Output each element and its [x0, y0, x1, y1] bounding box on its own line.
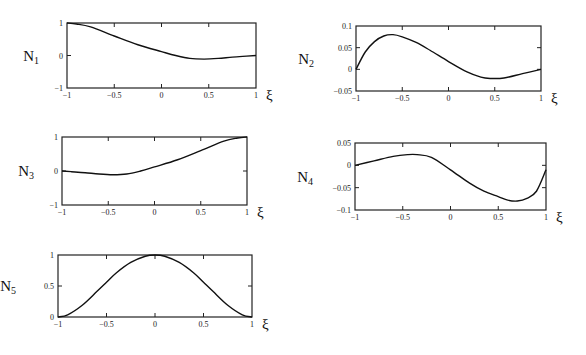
y-tick-label: 1 [50, 251, 54, 260]
x-tick-label: −1 [54, 320, 63, 329]
x-tick-label: 0.5 [196, 208, 206, 217]
y-tick-label: 0 [54, 167, 58, 176]
x-tick-label: 1 [539, 94, 543, 103]
chart-n1: −1−0.500.51−101N1ξ [23, 19, 273, 103]
x-axis-label: ξ [551, 90, 558, 106]
curve-n2 [356, 35, 541, 79]
x-tick-label: −1 [63, 91, 72, 100]
y-axis-label: N4 [297, 169, 313, 187]
x-tick-label: 0 [447, 94, 451, 103]
x-tick-label: 0.5 [199, 320, 209, 329]
x-tick-label: 1 [250, 320, 254, 329]
x-tick-label: 1 [245, 208, 249, 217]
x-tick-label: −0.5 [99, 320, 114, 329]
plot-frame [67, 23, 256, 88]
x-tick-label: 0.5 [493, 213, 503, 222]
x-tick-label: 0 [153, 320, 157, 329]
x-tick-label: −0.5 [395, 213, 410, 222]
x-axis-label: ξ [262, 316, 269, 332]
chart-n5: −1−0.500.5100.51N5ξ [0, 251, 269, 332]
y-axis-label: N5 [0, 278, 16, 296]
x-tick-label: 1 [254, 91, 258, 100]
y-tick-label: 0.05 [337, 139, 351, 148]
y-tick-label: 1 [59, 19, 63, 28]
y-tick-label: −0.1 [336, 206, 351, 215]
y-axis-label: N1 [23, 48, 39, 66]
x-tick-label: 0 [160, 91, 164, 100]
plot-frame [62, 137, 247, 205]
x-tick-label: −0.5 [395, 94, 410, 103]
y-tick-label: 0 [348, 65, 352, 74]
chart-n2: −1−0.500.51−0.0500.050.1N2ξ [298, 22, 558, 106]
y-axis-label: N3 [18, 163, 34, 181]
curve-n3 [62, 137, 247, 175]
x-axis-label: ξ [266, 87, 273, 103]
y-tick-label: 0 [59, 52, 63, 61]
chart-n3: −1−0.500.51−101N3ξ [18, 133, 264, 220]
x-tick-label: −1 [351, 213, 360, 222]
y-tick-label: 0 [50, 313, 54, 322]
curve-n1 [67, 23, 256, 59]
chart-n4: −1−0.500.51−0.1−0.0500.05N4ξ [297, 139, 563, 225]
x-tick-label: −1 [58, 208, 67, 217]
x-tick-label: 1 [544, 213, 548, 222]
y-axis-label: N2 [298, 51, 314, 69]
plot-frame [355, 143, 546, 210]
x-tick-label: 0 [449, 213, 453, 222]
x-tick-label: −1 [352, 94, 361, 103]
curve-n5 [58, 255, 252, 317]
y-tick-label: −1 [49, 201, 58, 210]
shape-functions-figure: −1−0.500.51−101N1ξ−1−0.500.51−0.0500.050… [0, 0, 586, 355]
y-tick-label: 1 [54, 133, 58, 142]
x-tick-label: 0.5 [204, 91, 214, 100]
y-tick-label: 0 [347, 161, 351, 170]
y-tick-label: 0.05 [338, 44, 352, 53]
x-tick-label: 0 [153, 208, 157, 217]
curve-n4 [355, 154, 546, 201]
y-tick-label: −1 [54, 84, 63, 93]
x-tick-label: −0.5 [101, 208, 116, 217]
x-axis-label: ξ [257, 204, 264, 220]
x-axis-label: ξ [556, 209, 563, 225]
y-tick-label: 0.1 [342, 22, 352, 31]
y-tick-label: 0.5 [44, 282, 54, 291]
x-tick-label: −0.5 [107, 91, 122, 100]
x-tick-label: 0.5 [490, 94, 500, 103]
y-tick-label: −0.05 [333, 87, 352, 96]
y-tick-label: −0.05 [332, 184, 351, 193]
plot-frame [58, 255, 252, 317]
